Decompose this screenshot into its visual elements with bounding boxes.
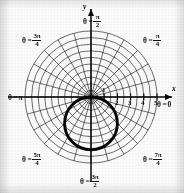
fraction-denominator: 4 [155, 41, 160, 48]
x-tick-label-3: 3 [128, 99, 132, 107]
angle-label-value: 0 [167, 101, 171, 109]
fraction-numerator: π [95, 14, 101, 21]
x-tick-label-2: 2 [115, 99, 119, 107]
fraction: 3π 4 [32, 33, 41, 49]
angle-label-theta-pi-2: θ = π 2 [83, 14, 101, 30]
fraction-denominator: 4 [34, 41, 39, 48]
fraction-numerator: π [155, 33, 161, 40]
fraction: 3π 2 [90, 174, 99, 190]
fraction-denominator: 4 [34, 160, 39, 167]
fraction: π 4 [153, 33, 161, 49]
angle-label-theta-pi: θ = π [8, 94, 22, 102]
fraction-numerator: 7π [153, 152, 162, 159]
y-axis-label: y [83, 2, 86, 11]
fraction: π 2 [93, 14, 101, 30]
fraction-numerator: 5π [32, 152, 41, 159]
angle-label-prefix: θ = [157, 101, 166, 109]
angle-label-prefix: θ = [8, 94, 17, 102]
angle-label-prefix: θ = [80, 178, 89, 186]
fraction-numerator: 3π [32, 33, 41, 40]
angle-label-theta-0: θ = 0 [157, 101, 171, 109]
angle-label-theta-3pi-4: θ = 3π 4 [22, 33, 41, 49]
x-tick-label-1: 1 [102, 86, 106, 94]
fraction-numerator: 3π [90, 174, 99, 181]
angle-label-theta-pi-4: θ = π 4 [143, 33, 161, 49]
fraction: 5π 4 [32, 152, 41, 168]
fraction-denominator: 4 [155, 160, 160, 167]
angle-label-theta-7pi-4: θ = 7π 4 [143, 152, 162, 168]
polar-plot-figure: y x 1 2 3 4 5 θ = 0 θ = π 4 θ = π 2 θ = … [0, 0, 184, 193]
angle-label-prefix: θ = [83, 18, 92, 26]
angle-label-prefix: θ = [143, 156, 152, 164]
fraction: 7π 4 [153, 152, 162, 168]
x-tick-label-4: 4 [141, 99, 145, 107]
angle-label-theta-3pi-2: θ = 3π 2 [80, 174, 99, 190]
fraction-denominator: 2 [92, 182, 97, 189]
angle-label-prefix: θ = [143, 37, 152, 45]
angle-label-value: π [18, 94, 22, 102]
angle-label-prefix: θ = [22, 156, 31, 164]
x-axis-label: x [172, 84, 176, 93]
fraction-denominator: 2 [95, 22, 100, 29]
angle-label-prefix: θ = [22, 37, 31, 45]
angle-label-theta-5pi-4: θ = 5π 4 [22, 152, 41, 168]
